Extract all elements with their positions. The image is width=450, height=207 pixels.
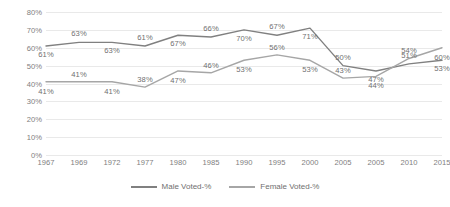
y-axis-tick-label: 20% (14, 115, 42, 124)
data-point-label: 44% (368, 81, 384, 90)
data-point-label: 47% (170, 75, 186, 84)
legend-label: Female Voted-% (260, 182, 319, 191)
data-point-label: 66% (203, 24, 219, 33)
x-axis-labels: 1967196919721977198019851990199520002005… (46, 158, 442, 174)
data-point-label: 67% (269, 22, 285, 31)
data-point-label: 53% (236, 65, 252, 74)
chart-container: 0%10%20%30%40%50%60%70%80% 61%63%63%61%6… (0, 0, 450, 207)
data-point-label: 53% (434, 64, 450, 73)
legend-line-icon (229, 186, 255, 188)
x-axis-tick-label: 1990 (236, 158, 253, 167)
x-axis-tick-label: 1972 (104, 158, 121, 167)
x-axis-tick-label: 2005 (335, 158, 352, 167)
x-axis-tick-label: 1969 (71, 158, 88, 167)
data-point-label: 41% (104, 86, 120, 95)
data-point-label: 56% (269, 42, 285, 51)
x-axis-tick-label: 2010 (401, 158, 418, 167)
data-point-label: 46% (203, 60, 219, 69)
data-point-label: 38% (137, 75, 153, 84)
data-point-label: 53% (302, 65, 318, 74)
y-axis-tick-label: 10% (14, 133, 42, 142)
x-axis-tick-label: 1995 (269, 158, 286, 167)
plot-area: 61%63%63%61%67%66%70%67%71%50%47%51%53%4… (46, 12, 442, 155)
data-point-label: 63% (104, 46, 120, 55)
data-point-label: 71% (302, 32, 318, 41)
data-point-label: 60% (434, 52, 450, 61)
y-axis-tick-label: 70% (14, 25, 42, 34)
data-point-label: 63% (71, 29, 87, 38)
gridline (46, 155, 442, 156)
data-point-label: 41% (38, 86, 54, 95)
data-point-label: 70% (236, 33, 252, 42)
x-axis-tick-label: 2000 (302, 158, 319, 167)
x-axis-tick-label: 1985 (203, 158, 220, 167)
data-point-label: 67% (170, 39, 186, 48)
data-point-label: 43% (335, 66, 351, 75)
x-axis-tick-label: 2005 (368, 158, 385, 167)
y-axis-tick-label: 30% (14, 97, 42, 106)
y-axis-tick-label: 50% (14, 61, 42, 70)
data-point-label: 61% (137, 32, 153, 41)
x-axis-tick-label: 2015 (434, 158, 450, 167)
x-axis-tick-label: 1977 (137, 158, 154, 167)
data-point-label: 41% (71, 69, 87, 78)
data-point-label: 54% (401, 46, 417, 55)
x-axis-tick-label: 1967 (38, 158, 55, 167)
y-axis-tick-label: 80% (14, 8, 42, 17)
data-point-label: 50% (335, 52, 351, 61)
chart-legend: Male Voted-%Female Voted-% (0, 182, 450, 191)
legend-item-female[interactable]: Female Voted-% (229, 182, 319, 191)
legend-item-male[interactable]: Male Voted-% (131, 182, 212, 191)
legend-line-icon (131, 186, 157, 188)
data-point-label: 61% (38, 49, 54, 58)
x-axis-tick-label: 1980 (170, 158, 187, 167)
legend-label: Male Voted-% (162, 182, 212, 191)
